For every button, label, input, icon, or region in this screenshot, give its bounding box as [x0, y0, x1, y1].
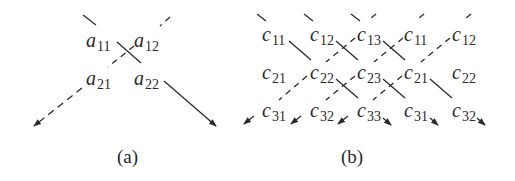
a-dashed-antidiagonal-mid	[108, 46, 134, 67]
matrix-element-c31-repeat: c31	[404, 100, 428, 120]
b-dashed-arrow-2	[291, 116, 301, 124]
b-dashed-tick-1	[370, 14, 376, 19]
figure-a-lines	[34, 15, 216, 126]
b-solid-c13-c21	[383, 41, 405, 60]
b-dashed-arrow-3	[338, 116, 348, 124]
b-solid-c21-c32	[430, 79, 452, 98]
matrix-element-a12: a12	[134, 30, 159, 50]
matrix-element-c32-repeat: c32	[452, 100, 476, 120]
matrix-element-c22: c22	[310, 62, 334, 82]
b-solid-arrow-2	[430, 118, 438, 125]
matrix-element-c23: c23	[357, 62, 381, 82]
matrix-element-c11: c11	[262, 24, 285, 44]
matrix-element-c22-repeat: c22	[452, 62, 476, 82]
matrix-element-c11-repeat: c11	[404, 24, 427, 44]
matrix-element-c21-repeat: c21	[404, 62, 428, 82]
matrix-element-a11: a11	[86, 30, 110, 50]
matrix-element-c12: c12	[310, 24, 334, 44]
a-dashed-antidiagonal-top	[160, 17, 170, 26]
b-solid-tick-1	[257, 14, 266, 21]
matrix-element-c33: c33	[357, 100, 381, 120]
a-solid-diagonal-arrow	[164, 81, 216, 126]
b-solid-tick-3	[351, 14, 360, 21]
a-dashed-antidiagonal-arrow	[34, 88, 82, 126]
b-solid-c23-c31	[383, 79, 405, 98]
diagram-lines	[0, 0, 515, 181]
b-dashed-arrow-1	[244, 116, 254, 124]
matrix-element-c21: c21	[262, 62, 286, 82]
b-solid-c22-c33	[336, 79, 358, 98]
matrix-element-a22: a22	[134, 68, 159, 88]
b-dashed-tick-2	[418, 14, 424, 19]
figure-b-caption: (b)	[341, 147, 363, 167]
matrix-element-c32: c32	[310, 100, 334, 120]
b-solid-arrow-1	[383, 118, 391, 125]
a-solid-diagonal-top	[83, 15, 96, 25]
b-solid-arrow-3	[477, 118, 485, 125]
matrix-element-c13: c13	[357, 24, 381, 44]
figure-a-caption: (a)	[117, 147, 138, 167]
matrix-element-c31: c31	[262, 100, 286, 120]
b-solid-tick-2	[304, 14, 313, 21]
matrix-element-a21: a21	[86, 68, 111, 88]
matrix-element-c12-repeat: c12	[452, 24, 476, 44]
b-solid-c11-c22	[289, 41, 311, 60]
b-solid-c12-c23	[336, 41, 358, 60]
b-dashed-tick-3	[465, 14, 471, 19]
